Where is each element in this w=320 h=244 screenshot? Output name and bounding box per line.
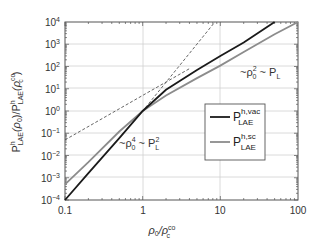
- x-tick-100: 100: [290, 205, 307, 216]
- y-tick-4: 104: [45, 16, 60, 28]
- x-axis-label: ρ0/ρcoc: [148, 224, 176, 239]
- annotation-slope-2: ~ρ20 ~ PL: [240, 65, 280, 80]
- x-tick-0.1: 0.1: [58, 205, 72, 216]
- x-tick-1: 1: [140, 205, 146, 216]
- log-log-chart: 10410310210110010−110−210−310−4 0.1 1 10…: [0, 0, 320, 244]
- annotation-slope-4: ~ρ40 ~ P2L: [119, 136, 159, 151]
- y-tick--1: 10−1: [41, 127, 60, 139]
- y-tick--2: 10−2: [41, 150, 60, 162]
- x-tick-labels: 0.1 1 10 100: [58, 205, 307, 216]
- svg-text:PhLAE(ρ0)/PhLAE(ρcoc): PhLAE(ρ0)/PhLAE(ρcoc): [9, 71, 24, 152]
- y-tick--3: 10−3: [41, 172, 60, 184]
- y-tick-0: 100: [45, 105, 60, 117]
- y-tick-labels: 10410310210110010−110−210−310−4: [41, 16, 60, 206]
- y-tick-1: 101: [45, 83, 60, 95]
- y-tick-3: 103: [45, 38, 60, 50]
- y-axis-label: PhLAE(ρ0)/PhLAE(ρcoc): [9, 71, 24, 152]
- legend: Ph,vacLAE Ph,scLAE: [205, 104, 265, 160]
- y-tick-2: 102: [45, 61, 60, 73]
- x-tick-10: 10: [214, 205, 226, 216]
